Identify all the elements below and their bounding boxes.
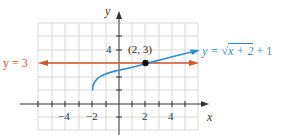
y-axis-arrow-icon: [116, 11, 122, 19]
curve-eq-suffix: + 1: [253, 44, 272, 58]
red-left-arrow-icon: [38, 60, 48, 66]
line-equation-label: y = 3: [3, 57, 28, 69]
curve-equation-label: y = √x + 2 + 1: [202, 45, 272, 57]
x-tick-4: 4: [168, 111, 174, 122]
curve-sqrt: [93, 52, 195, 91]
x-tick-neg2: −2: [86, 111, 98, 122]
x-axis-arrow-icon: [201, 101, 209, 107]
curve-eq-radicand: x + 2: [228, 43, 253, 58]
x-axis-label: x: [207, 111, 212, 123]
x-tick-neg4: −4: [58, 111, 70, 122]
x-axis: [20, 101, 203, 107]
y-axis-label: y: [105, 5, 110, 17]
y-axis: [116, 18, 122, 135]
point-2-3: [142, 60, 148, 66]
graph-figure: y x −4 −2 2 4 4 (2, 3) y = 3 y = √x + 2 …: [0, 0, 285, 135]
point-label: (2, 3): [128, 44, 152, 55]
curve-eq-prefix: y =: [202, 44, 221, 58]
y-tick-4: 4: [106, 44, 112, 55]
x-tick-2: 2: [142, 111, 148, 122]
